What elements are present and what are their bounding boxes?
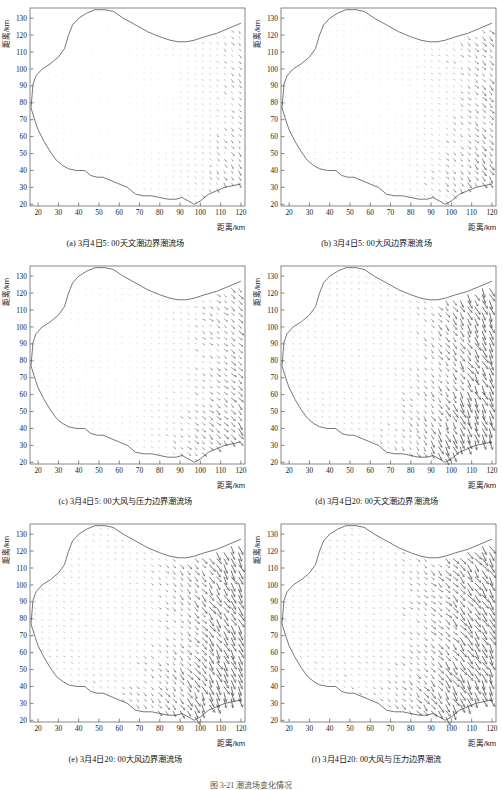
x-tick-label: 100 [446,208,457,217]
y-tick-label: 90 [271,597,279,606]
x-tick-label: 60 [116,466,124,475]
subplot-b: 2030405060708090100110120203040506070809… [251,0,502,232]
subplot-a: 2030405060708090100110120203040506070809… [0,0,251,232]
y-tick-label: 100 [267,65,278,74]
x-tick-label: 120 [486,208,497,217]
x-tick-label: 80 [156,724,164,733]
y-tick-label: 80 [20,614,28,623]
vector-field [285,270,495,465]
x-tick-label: 40 [326,724,334,733]
y-tick-label: 40 [20,682,28,691]
vector-field [285,12,494,205]
x-tick-label: 20 [285,466,293,475]
x-tick-label: 110 [466,208,477,217]
x-tick-label: 30 [306,208,314,217]
x-tick-label: 120 [235,724,246,733]
y-axis-label: 距离/km [1,278,11,306]
y-tick-label: 50 [271,665,279,674]
y-tick-label: 30 [271,441,279,450]
x-tick-label: 80 [407,208,415,217]
x-tick-label: 30 [55,208,63,217]
y-tick-label: 70 [271,631,279,640]
y-tick-label: 120 [16,547,27,556]
plot-area-a: 2030405060708090100110120203040506070809… [0,0,251,232]
y-tick-label: 40 [20,166,28,175]
plot-area-b: 2030405060708090100110120203040506070809… [251,0,502,232]
y-tick-label: 50 [20,665,28,674]
x-axis-label: 距离/km [217,222,245,232]
subplot-caption: (b) 3月4日5: 00大风边界潮流场 [251,236,502,248]
y-tick-label: 20 [20,716,28,725]
y-axis-label: 距离/km [252,536,262,564]
y-tick-label: 50 [271,149,279,158]
subplot-e: 2030405060708090100110120203040506070809… [0,516,251,748]
x-tick-label: 20 [34,724,42,733]
coastline-upper [282,526,492,624]
y-tick-label: 110 [267,48,278,57]
y-tick-label: 60 [20,390,28,399]
x-tick-label: 50 [346,208,354,217]
x-tick-label: 50 [346,724,354,733]
x-axis-label: 距离/km [468,480,496,490]
y-tick-label: 110 [16,306,27,315]
figure-tidal-current-fields: 2030405060708090100110120203040506070809… [0,0,502,790]
x-tick-label: 80 [156,208,164,217]
plot-area-e: 2030405060708090100110120203040506070809… [0,516,251,748]
x-tick-label: 110 [215,208,226,217]
x-tick-label: 100 [195,724,206,733]
y-tick-label: 60 [271,390,279,399]
y-tick-label: 80 [271,356,279,365]
y-tick-label: 60 [271,132,279,141]
x-tick-label: 60 [116,724,124,733]
y-axis-label: 距离/km [1,20,11,48]
subplot-caption: (f) 3月4日20: 00大风与压力边界潮流 [251,752,502,764]
coastline-lower [31,108,241,205]
y-tick-label: 130 [16,272,27,281]
x-tick-label: 70 [136,724,144,733]
y-tick-label: 110 [267,306,278,315]
x-tick-label: 90 [176,724,184,733]
x-tick-label: 70 [136,466,144,475]
y-tick-label: 40 [271,424,279,433]
y-tick-label: 60 [271,648,279,657]
y-tick-label: 30 [271,183,279,192]
x-tick-label: 90 [427,466,435,475]
x-axis-label: 距离/km [468,738,496,748]
y-tick-label: 70 [271,115,279,124]
y-tick-label: 130 [267,14,278,23]
y-tick-label: 70 [20,115,28,124]
y-tick-label: 80 [20,356,28,365]
y-tick-label: 100 [16,581,27,590]
coastline-upper [282,10,492,108]
x-tick-label: 70 [136,208,144,217]
y-tick-label: 70 [20,631,28,640]
y-tick-label: 100 [16,65,27,74]
coastline-upper [31,268,241,366]
x-axis-label: 距离/km [217,738,245,748]
plot-frame [30,8,245,206]
subplot-f: 2030405060708090100110120203040506070809… [251,516,502,748]
y-tick-label: 70 [20,373,28,382]
y-tick-label: 40 [20,424,28,433]
x-tick-label: 30 [55,466,63,475]
x-axis-label: 距离/km [468,222,496,232]
y-tick-label: 60 [20,132,28,141]
plot-area-c: 2030405060708090100110120203040506070809… [0,258,251,490]
x-tick-label: 50 [95,724,103,733]
subplot-d: 2030405060708090100110120203040506070809… [251,258,502,490]
x-tick-label: 70 [387,208,395,217]
x-tick-label: 70 [387,466,395,475]
y-axis-label: 距离/km [252,20,262,48]
y-tick-label: 30 [20,699,28,708]
x-tick-label: 30 [306,466,314,475]
plot-frame [281,8,496,206]
coastline-lower [282,108,492,205]
y-tick-label: 20 [271,716,279,725]
x-tick-label: 80 [156,466,164,475]
y-tick-label: 50 [271,407,279,416]
y-tick-label: 80 [20,98,28,107]
y-tick-label: 20 [20,458,28,467]
x-tick-label: 50 [95,208,103,217]
vector-field [34,528,244,724]
y-tick-label: 30 [271,699,279,708]
